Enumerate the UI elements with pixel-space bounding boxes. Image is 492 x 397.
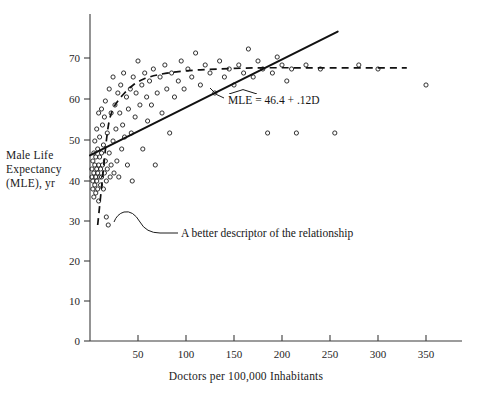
data-point bbox=[146, 119, 150, 123]
data-point bbox=[147, 79, 151, 83]
data-point bbox=[222, 75, 226, 79]
data-point bbox=[155, 91, 159, 95]
data-point bbox=[104, 179, 108, 183]
data-point bbox=[194, 51, 198, 55]
data-point bbox=[145, 95, 149, 99]
mle-hat-label: MLE bbox=[228, 94, 252, 106]
scatter-points-group bbox=[90, 47, 428, 227]
data-point bbox=[111, 75, 115, 79]
data-point bbox=[141, 147, 145, 151]
y-tick-label-60: 60 bbox=[69, 93, 81, 105]
scatter-plot-figure: 0 10 20 30 40 50 60 70 50 100 150 200 25… bbox=[0, 0, 492, 397]
y-tick-label-70: 70 bbox=[69, 52, 81, 64]
data-point bbox=[136, 59, 140, 63]
data-point bbox=[294, 131, 298, 135]
x-axis-ticks: 50 100 150 200 250 300 350 bbox=[133, 335, 435, 360]
data-point bbox=[98, 135, 102, 139]
y-axis-title-line-3: (MLE), yr bbox=[6, 176, 84, 190]
chart-canvas: 0 10 20 30 40 50 60 70 50 100 150 200 25… bbox=[0, 0, 492, 397]
data-point bbox=[179, 59, 183, 63]
data-point bbox=[92, 195, 96, 199]
data-point bbox=[190, 75, 194, 79]
x-axis-title: Doctors per 100,000 Inhabitants bbox=[0, 370, 492, 382]
data-point bbox=[97, 111, 101, 115]
data-point bbox=[93, 139, 97, 143]
data-point bbox=[242, 71, 246, 75]
data-point bbox=[116, 91, 120, 95]
regression-equation-text: = 46.4 + .12D bbox=[252, 94, 319, 106]
data-point bbox=[100, 123, 104, 127]
descriptor-leader-line bbox=[114, 212, 178, 233]
data-point bbox=[118, 111, 122, 115]
x-tick-label-300: 300 bbox=[370, 348, 387, 360]
y-tick-label-20: 20 bbox=[69, 255, 81, 267]
data-point bbox=[275, 55, 279, 59]
data-point bbox=[163, 63, 167, 67]
data-point bbox=[99, 151, 103, 155]
data-point bbox=[140, 83, 144, 87]
data-point bbox=[107, 151, 111, 155]
data-point bbox=[109, 163, 113, 167]
data-point bbox=[130, 179, 134, 183]
data-point bbox=[95, 127, 99, 131]
data-point bbox=[91, 159, 95, 163]
y-axis-title: Male Life Expectancy (MLE), yr bbox=[6, 148, 84, 190]
data-point bbox=[170, 71, 174, 75]
x-tick-label-50: 50 bbox=[133, 348, 145, 360]
x-tick-label-100: 100 bbox=[178, 348, 195, 360]
data-point bbox=[120, 147, 124, 151]
data-point bbox=[112, 171, 116, 175]
y-tick-label-50: 50 bbox=[69, 134, 81, 146]
data-point bbox=[172, 95, 176, 99]
mle-hat-group: MLE bbox=[228, 94, 252, 106]
data-point bbox=[153, 163, 157, 167]
data-point bbox=[115, 159, 119, 163]
data-point bbox=[131, 75, 135, 79]
data-point bbox=[106, 223, 110, 227]
y-tick-label-30: 30 bbox=[69, 215, 81, 227]
data-point bbox=[218, 59, 222, 63]
data-point bbox=[290, 67, 294, 71]
data-point bbox=[91, 187, 95, 191]
data-point bbox=[333, 131, 337, 135]
data-point bbox=[103, 99, 107, 103]
data-point bbox=[134, 91, 138, 95]
data-point bbox=[424, 83, 428, 87]
data-point bbox=[165, 87, 169, 91]
data-point bbox=[168, 131, 172, 135]
y-tick-label-0: 0 bbox=[75, 335, 81, 347]
data-point bbox=[124, 95, 128, 99]
y-axis-ticks: 0 10 20 30 40 50 60 70 bbox=[69, 52, 90, 347]
data-point bbox=[94, 191, 98, 195]
data-point bbox=[119, 83, 123, 87]
data-point bbox=[122, 71, 126, 75]
data-point bbox=[256, 59, 260, 63]
data-point bbox=[357, 63, 361, 67]
data-point bbox=[99, 107, 103, 111]
data-point bbox=[208, 71, 212, 75]
data-point bbox=[93, 183, 97, 187]
data-point bbox=[176, 79, 180, 83]
x-tick-label-150: 150 bbox=[226, 348, 243, 360]
data-point bbox=[203, 63, 207, 67]
data-point bbox=[143, 71, 147, 75]
data-point bbox=[104, 215, 108, 219]
data-point bbox=[237, 63, 241, 67]
data-point bbox=[117, 175, 121, 179]
data-point bbox=[158, 75, 162, 79]
data-point bbox=[125, 163, 129, 167]
data-point bbox=[246, 47, 250, 51]
data-point bbox=[198, 83, 202, 87]
smoother-curve bbox=[98, 68, 407, 225]
data-point bbox=[102, 115, 106, 119]
x-tick-label-350: 350 bbox=[418, 348, 435, 360]
data-point bbox=[138, 103, 142, 107]
y-axis-title-line-1: Male Life bbox=[6, 148, 84, 162]
data-point bbox=[304, 63, 308, 67]
y-tick-label-10: 10 bbox=[69, 295, 81, 307]
data-point bbox=[280, 63, 284, 67]
data-point bbox=[149, 103, 153, 107]
data-point bbox=[96, 187, 100, 191]
data-point bbox=[266, 131, 270, 135]
data-point bbox=[270, 71, 274, 75]
